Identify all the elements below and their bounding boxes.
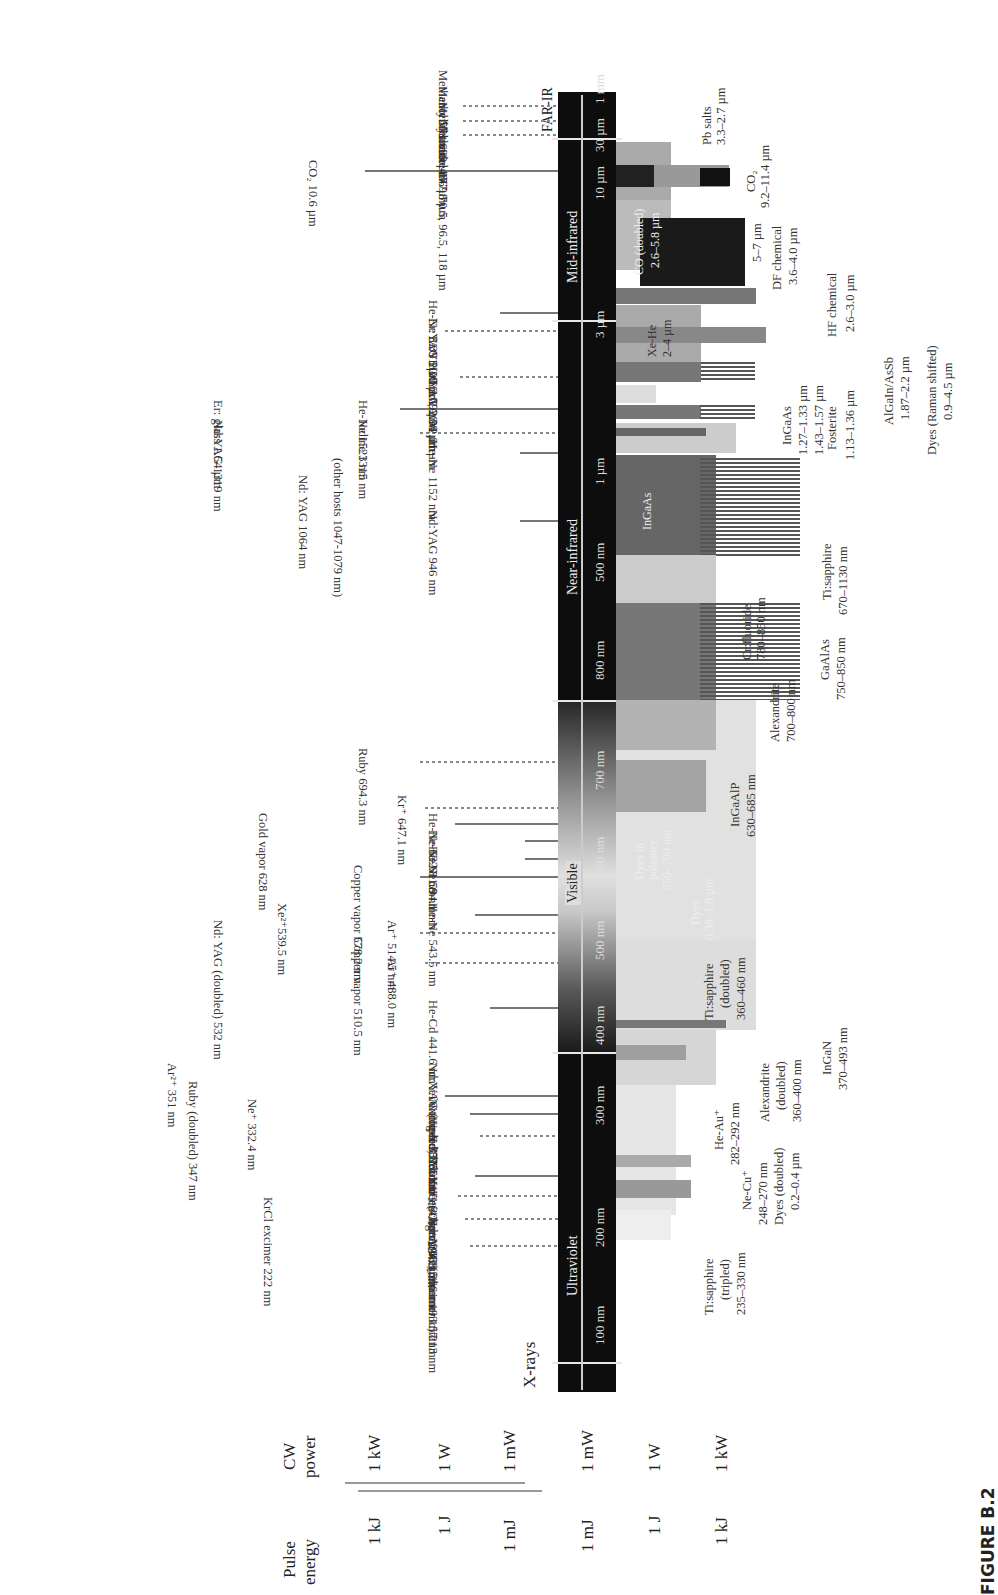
region-mid-infrared: Mid-infrared [565, 211, 581, 283]
axis-cw-1mw: 1 mW [500, 1430, 520, 1472]
inner-label-dyes-range: 0.38–1.0 µm [702, 879, 717, 940]
cw-label-ar488: Ar⁺ 488.0 nm [384, 958, 400, 1028]
bar-df-chemical [616, 288, 756, 304]
bar-ingaas-1 [616, 405, 701, 419]
pulsed-label-pb-range: 3.3–2.7 µm [714, 87, 729, 145]
cw-line-arf [470, 1245, 558, 1247]
pulsed-label-ingan-range: 370–493 nm [836, 1027, 851, 1090]
pulsed-label-co2-range: 9.2–11.4 µm [758, 145, 773, 208]
cw-label-f2: F₂ excimer 157 nm [425, 1262, 440, 1358]
cw-label-hene1152: He-Ne 1152 nm [425, 440, 440, 520]
pulsed-label-necu-range: 248–270 nm [756, 1162, 771, 1225]
pulsed-label-alexandrite-range: 700–800 nm [784, 679, 799, 742]
cw-line-methanol1 [463, 134, 558, 136]
cw-label-ne: Ne⁺ 332.4 nm [244, 1099, 260, 1171]
pulsed-label-hf-range: 2.6–3.0 µm [843, 274, 858, 332]
inner-label-co-doubled: CO (doubled) [632, 209, 647, 275]
cw-line-krf [458, 1195, 558, 1197]
pulsed-label-ingaalp: InGaAlP [728, 783, 743, 827]
cw-line-nitrogen [470, 1113, 558, 1115]
tick-500nm-nir: 500 nm [592, 543, 608, 582]
region-divider-mir [552, 320, 622, 322]
axis-cw-label: CW [280, 1443, 300, 1470]
cw-line-kr647 [425, 807, 558, 809]
axis-e-1kj: 1 kJ [365, 1517, 385, 1545]
pulsed-label-pb: Pb salts [700, 106, 715, 145]
cw-label-ndyag1064: Nd: YAG 1064 nm [295, 475, 310, 569]
pulsed-label-tisap-tripled-q: (tripled) [718, 1259, 733, 1300]
region-divider-fir [552, 138, 622, 140]
cw-label-kr647: Kr⁺ 647.1 nm [394, 795, 410, 865]
pulsed-label-tisap-doubled: Ti:sapphire [702, 964, 717, 1021]
pulsed-label-tisap-tripled: Ti:sapphire [702, 1259, 717, 1316]
cw-label-ndyag2: Nd: YAG (doubled) 532 nm [210, 920, 225, 1060]
figure-caption: FIGURE B.2 [978, 1487, 998, 1595]
pulsed-label-tisap-doubled-q: (doubled) [718, 959, 733, 1008]
axis-e-1mj: 1 mJ [500, 1519, 520, 1552]
axis-p-1mw: 1 mW [578, 1430, 598, 1472]
pulsed-label-tisapphire-range: 670–1130 nm [836, 546, 851, 615]
cw-label-hene543: He-Ne 543.5 nm [425, 903, 440, 987]
cw-label-iodine: Iodine 1315 nm [355, 420, 370, 499]
inner-label-dyes-polymer-3: 550–700 nm [660, 830, 675, 890]
axis-xrays: X-rays [520, 1342, 540, 1388]
cw-line-ndyag946 [520, 520, 558, 522]
bar-algain [616, 362, 701, 382]
tick-100nm: 100 nm [592, 1306, 608, 1345]
pulsed-label-df: DF chemical [770, 226, 785, 290]
axis-pe-1kj: 1 kJ [712, 1517, 732, 1545]
cw-line-hene543 [475, 914, 558, 916]
cw-label-xe539: Xe²⁺539.5 nm [274, 903, 290, 975]
tick-700nm: 700 nm [592, 751, 608, 790]
bar-dyes-raman [616, 385, 656, 403]
cw-label-ndyag946: Nd:YAG 946 nm [425, 510, 440, 595]
pulsed-label-algain: AlGaIn/AsSb [882, 357, 897, 425]
pulsed-label-ingaalp-range: 630–685 nm [744, 774, 759, 837]
axis-cw-1kw: 1 kW [365, 1435, 385, 1472]
cw-line-hene632 [455, 823, 558, 825]
cw-line-xef [445, 1095, 558, 1097]
pulsed-label-gaalas: GaAlAs [818, 639, 833, 680]
cw-line-hene1152 [520, 452, 558, 454]
pulsed-label-alex-doubled-q: (doubled) [774, 1061, 789, 1110]
bar-ingaas-2 [616, 428, 706, 436]
cw-line-hene611 [525, 840, 558, 842]
tick-500nm: 500 nm [592, 921, 608, 960]
cw-line-hene594 [525, 858, 558, 860]
pulsed-label-df-range: 3.6–4.0 µm [786, 227, 801, 285]
pulsed-label-heau-range: 282–292 nm [728, 1102, 743, 1165]
tick-300nm: 300 nm [592, 1086, 608, 1125]
bar-tisapphire-tripled [616, 1210, 671, 1240]
axis-power-label: power [300, 1436, 320, 1478]
pulsed-label-alexandrite: Alexandrite [768, 683, 783, 742]
bar-algain-hatch [700, 362, 755, 382]
bar-co2-pulsed [700, 168, 730, 186]
axis-p-1kw: 1 kW [712, 1435, 732, 1472]
axis-energy-label: energy [300, 1539, 320, 1585]
tick-400nm: 400 nm [592, 1006, 608, 1045]
cw-line-iodine [420, 432, 558, 434]
axis-p-1w: 1 W [645, 1444, 665, 1473]
cw-label-ndyag1319: Nd:YAG 1319 nm [210, 420, 225, 512]
cw-line-hene1523 [400, 408, 558, 410]
cw-line-hoyag [460, 376, 558, 378]
bar-dyes-nir [616, 555, 716, 603]
cw-label-rubyd: Ruby (doubled) 347 nm [185, 1081, 200, 1201]
cw-label-otherhosts: (other hosts 1047-1079 nm) [330, 458, 345, 597]
cw-line-hecd325 [480, 1135, 558, 1137]
axis-pulse-label: Pulse [280, 1541, 300, 1578]
axis-cw-1w: 1 W [435, 1444, 455, 1473]
pulsed-label-dyes-doubled-range: 0.2–0.4 µm [788, 1152, 803, 1210]
bar-uv-mix [616, 1030, 716, 1085]
cw-axis-line [345, 1482, 525, 1484]
bar-ingaas-1-hatch [700, 405, 755, 419]
pulsed-label-dyes-doubled: Dyes (doubled) [772, 1148, 787, 1225]
pulsed-label-crfluoride: Cr:fluoride [740, 604, 755, 660]
region-far-ir: FAR-IR [540, 87, 556, 132]
region-visible: Visible [565, 861, 581, 905]
pulsed-label-tisap-doubled-range: 360–460 nm [734, 957, 749, 1020]
tick-10um: 10 µm [592, 166, 608, 200]
pulsed-label-alex-doubled: Alexandrite [758, 1063, 773, 1122]
cw-line-ndyag4 [475, 1175, 558, 1177]
pulsed-label-alex-doubled-range: 360–400 nm [790, 1059, 805, 1122]
